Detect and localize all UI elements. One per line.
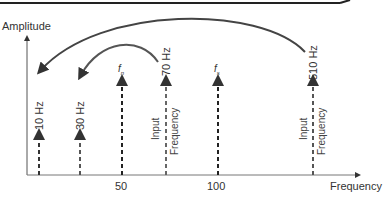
- line-label-510hz: 510 Hz: [307, 45, 319, 80]
- y-axis-label: Amplitude: [2, 20, 51, 32]
- nyquist-label: fn: [118, 63, 124, 76]
- input-caption-510-line1: Input: [298, 118, 309, 140]
- line-label-30hz: 30 Hz: [74, 101, 86, 130]
- input-caption-70-line2: Frequency: [169, 108, 180, 155]
- line-label-10hz: 10 Hz: [33, 101, 45, 130]
- aliasing-diagram: [0, 0, 387, 201]
- input-caption-70-line1: Input: [150, 118, 161, 140]
- x-tick-100: 100: [207, 180, 225, 192]
- line-label-70hz: 70 Hz: [160, 47, 172, 76]
- x-tick-50: 50: [115, 180, 127, 192]
- sampling-freq-label: fs: [214, 63, 220, 76]
- x-axis-label: Frequency: [330, 180, 382, 192]
- input-caption-510-line2: Frequency: [316, 108, 327, 155]
